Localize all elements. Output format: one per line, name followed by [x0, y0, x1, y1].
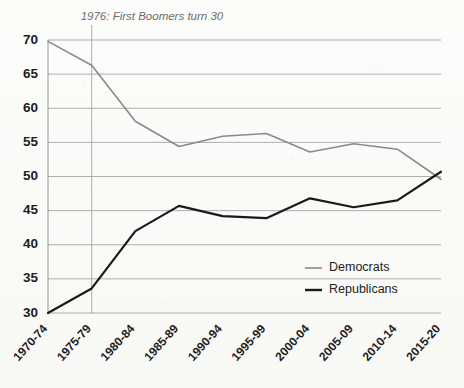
x-axis-tick-label: 2010-14 — [360, 321, 400, 363]
ytick-labels-group: 303540455055606570 — [23, 32, 39, 320]
x-axis-tick-label: 1980-84 — [98, 321, 138, 363]
y-axis-tick-label: 55 — [23, 134, 39, 149]
x-axis-tick-label: 2015-20 — [403, 321, 443, 363]
x-axis-tick-label: 2000-04 — [272, 321, 312, 363]
y-axis-tick-label: 30 — [23, 305, 38, 320]
series-line-democrats — [48, 41, 441, 179]
annotation-label: 1976: First Boomers turn 30 — [81, 10, 224, 22]
y-axis-tick-label: 50 — [23, 168, 38, 183]
line-chart: 1976: First Boomers turn 30 303540455055… — [0, 0, 464, 388]
xtick-labels-group: 1970-741975-791980-841985-891990-941995-… — [10, 321, 443, 363]
x-axis-tick-label: 1985-89 — [141, 321, 181, 363]
y-axis-tick-label: 35 — [23, 270, 39, 285]
x-axis-tick-label: 2005-09 — [316, 321, 356, 363]
x-axis-tick-label: 1975-79 — [54, 321, 94, 363]
annotation-group: 1976: First Boomers turn 30 — [81, 10, 224, 313]
legend-group: DemocratsRepublicans — [305, 260, 398, 296]
y-axis-tick-label: 65 — [23, 66, 39, 81]
y-axis-tick-label: 40 — [23, 236, 38, 251]
x-axis-tick-label: 1990-94 — [185, 321, 225, 363]
x-axis-tick-label: 1970-74 — [10, 321, 50, 363]
y-axis-tick-label: 60 — [23, 100, 38, 115]
chart-container: 1976: First Boomers turn 30 303540455055… — [0, 0, 464, 388]
y-axis-tick-label: 70 — [23, 32, 38, 47]
legend-label-republicans: Republicans — [329, 282, 398, 296]
legend-label-democrats: Democrats — [329, 260, 389, 274]
x-axis-tick-label: 1995-99 — [229, 321, 269, 363]
y-axis-tick-label: 45 — [23, 202, 39, 217]
